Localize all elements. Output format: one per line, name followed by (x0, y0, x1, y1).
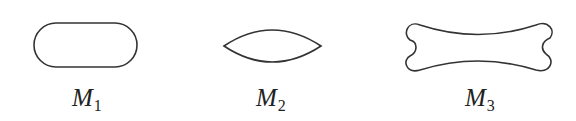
label-m1-main: M (72, 84, 93, 111)
label-m3-main: M (465, 84, 486, 111)
label-m2: M2 (256, 84, 286, 115)
lens-shape-m2 (224, 30, 321, 62)
label-m1: M1 (72, 84, 102, 115)
bone-shape-m3 (406, 24, 552, 71)
label-m2-main: M (256, 84, 277, 111)
stadium-shape-m1 (34, 23, 137, 67)
label-m1-sub: 1 (94, 97, 102, 114)
label-m3-sub: 3 (487, 97, 495, 114)
label-m2-sub: 2 (278, 97, 286, 114)
label-m3: M3 (465, 84, 495, 115)
figure-canvas: M1 M2 M3 (0, 0, 576, 121)
